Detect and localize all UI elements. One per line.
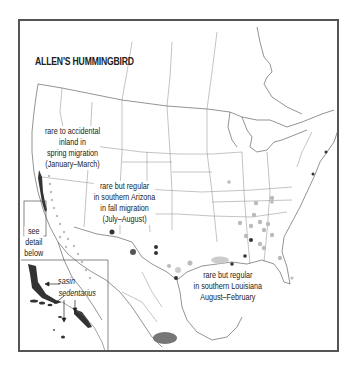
note-line: spring migration xyxy=(45,148,100,159)
note-line: inland in xyxy=(45,137,100,148)
wintering-range-mexico xyxy=(153,332,177,344)
note-line: detail xyxy=(24,237,43,248)
map-title: ALLEN'S HUMMINGBIRD xyxy=(35,55,134,67)
note-line: (July–August) xyxy=(94,214,156,225)
note-line: in southern Arizona xyxy=(94,192,156,203)
map-frame xyxy=(18,19,339,352)
note-line: (January–March) xyxy=(45,159,100,170)
note-line: rare to accidental xyxy=(45,126,100,137)
country-borders xyxy=(32,27,338,347)
louisiana-note: rare but regular in southern Louisiana A… xyxy=(194,270,262,303)
sasin-label: sasin xyxy=(58,276,75,287)
note-line: August–February xyxy=(194,292,262,303)
note-line: see xyxy=(24,226,43,237)
arizona-fall-note: rare but regular in southern Arizona in … xyxy=(94,181,156,225)
note-line: in southern Louisiana xyxy=(194,281,262,292)
note-line: rare but regular xyxy=(94,181,156,192)
sedentarius-mainland xyxy=(74,309,92,328)
sedentarius-label: sedentarius xyxy=(59,288,96,299)
see-detail-note: see detail below xyxy=(24,226,43,259)
note-line: in fall migration xyxy=(94,203,156,214)
note-line: below xyxy=(24,248,43,259)
spring-migration-note: rare to accidental inland in spring migr… xyxy=(45,126,100,170)
note-line: rare but regular xyxy=(194,270,262,281)
range-map xyxy=(20,21,339,352)
channel-islands xyxy=(30,300,65,339)
